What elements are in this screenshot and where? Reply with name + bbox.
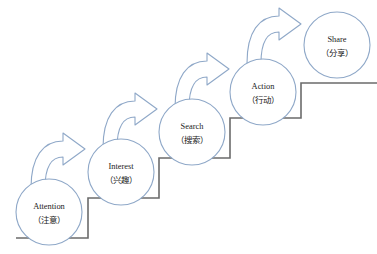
stage-action[interactable]: Action （行动） <box>230 59 296 125</box>
stage-label-zh: （兴趣） <box>105 175 137 185</box>
stage-label-en: Interest <box>108 162 134 171</box>
stage-attention[interactable]: Attention （注意） <box>16 179 82 245</box>
stage-label-en: Action <box>252 82 276 91</box>
stage-label-en: Attention <box>33 202 65 211</box>
stage-label-zh: （搜索） <box>176 135 208 145</box>
stage-circle[interactable] <box>230 59 296 125</box>
stage-group: Attention （注意） Interest （兴趣） Search （搜索）… <box>16 12 370 245</box>
stage-circle[interactable] <box>88 139 154 205</box>
diagram-canvas: Attention （注意） Interest （兴趣） Search （搜索）… <box>0 0 377 254</box>
stage-label-zh: （分享） <box>321 48 353 58</box>
stage-label-zh: （行动） <box>247 95 279 105</box>
stage-interest[interactable]: Interest （兴趣） <box>88 139 154 205</box>
aisas-staircase-diagram: Attention （注意） Interest （兴趣） Search （搜索）… <box>0 0 377 254</box>
stage-circle[interactable] <box>304 12 370 78</box>
stage-circle[interactable] <box>159 99 225 165</box>
curved-arrow-icon <box>247 8 301 63</box>
stage-label-en: Search <box>181 122 205 131</box>
stage-share[interactable]: Share （分享） <box>304 12 370 78</box>
stage-label-en: Share <box>327 35 346 44</box>
stage-label-zh: （注意） <box>33 215 65 225</box>
stage-search[interactable]: Search （搜索） <box>159 99 225 165</box>
arrow-action-to-share <box>247 8 301 63</box>
stage-circle[interactable] <box>16 179 82 245</box>
